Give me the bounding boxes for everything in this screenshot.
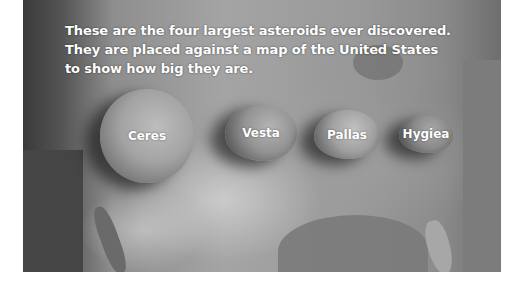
asteroid-ceres: Ceres — [100, 89, 194, 183]
baja-california — [90, 204, 131, 272]
gulf-of-mexico — [278, 215, 428, 272]
caption-line-2: They are placed against a map of the Uni… — [65, 40, 505, 59]
asteroid-hygiea: Hygiea — [399, 115, 453, 153]
asteroid-label: Vesta — [225, 126, 297, 140]
asteroid-label: Pallas — [314, 128, 380, 142]
caption-line-1: These are the four largest asteroids eve… — [65, 21, 505, 40]
asteroid-label: Ceres — [100, 129, 194, 143]
pacific-ocean — [23, 150, 83, 272]
asteroid-label: Hygiea — [399, 127, 453, 141]
caption-line-3: to show how big they are. — [65, 59, 505, 78]
asteroid-vesta: Vesta — [225, 104, 297, 161]
caption: These are the four largest asteroids eve… — [65, 21, 505, 78]
asteroid-pallas: Pallas — [314, 110, 380, 159]
atlantic-ocean — [463, 60, 501, 272]
